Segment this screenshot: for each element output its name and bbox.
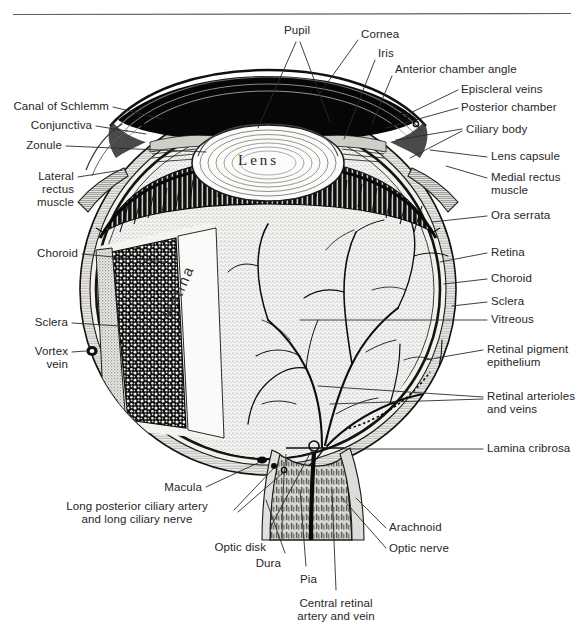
label-optic-nerve: Optic nerve	[389, 542, 449, 555]
label-retina-right: Retina	[491, 246, 525, 259]
label-lamina-cribrosa: Lamina cribrosa	[487, 442, 570, 455]
label-arachnoid: Arachnoid	[389, 521, 442, 534]
label-episcleral-veins: Episcleral veins	[461, 83, 543, 96]
label-pupil: Pupil	[284, 24, 310, 37]
label-sclera-right: Sclera	[491, 295, 524, 308]
label-central-retinal-artery-and-vein: Central retinal artery and vein	[272, 597, 400, 623]
top-rule	[13, 14, 571, 15]
label-cornea: Cornea	[361, 28, 399, 41]
label-anterior-chamber-angle: Anterior chamber angle	[395, 63, 517, 76]
leader-lens-capsule	[430, 150, 487, 157]
label-ciliary-body: Ciliary body	[466, 123, 527, 136]
label-retinal-pigment-epithelium: Retinal pigment epithelium	[487, 343, 568, 369]
label-sclera-left: Sclera	[0, 316, 68, 329]
leader-episcleral-veins	[404, 90, 458, 116]
label-choroid-left: Choroid	[0, 247, 78, 260]
label-retinal-arterioles-and-veins: Retinal arterioles and veins	[487, 390, 575, 416]
leader-medial-rectus	[446, 166, 487, 178]
label-optic-disk: Optic disk	[170, 541, 266, 554]
leader-vortex-vein	[72, 351, 86, 352]
optic-nerve	[262, 448, 364, 540]
lens-inline-text: Lens	[238, 154, 279, 167]
label-dura: Dura	[210, 557, 281, 570]
eye-anatomy-figure: Lens Retina Pupil Cornea Iris Anterior c…	[0, 0, 585, 640]
cutaway-wedge	[96, 222, 224, 440]
label-lateral-rectus-muscle: Lateral rectus muscle	[0, 170, 74, 209]
eyeball-globe	[80, 70, 456, 475]
label-choroid-right: Choroid	[491, 272, 532, 285]
label-vortex-vein: Vortex vein	[0, 345, 68, 371]
label-zonule: Zonule	[0, 139, 62, 152]
label-posterior-chamber: Posterior chamber	[461, 101, 557, 114]
label-vitreous: Vitreous	[491, 313, 534, 326]
vortex-vein	[86, 346, 97, 356]
label-medial-rectus-muscle: Medial rectus muscle	[491, 171, 561, 197]
canal-of-schlemm-left	[139, 121, 144, 126]
label-iris: Iris	[378, 47, 394, 60]
label-lens-capsule: Lens capsule	[491, 150, 560, 163]
label-conjunctiva: Conjunctiva	[0, 119, 92, 132]
episcleral-vein-2	[413, 121, 418, 126]
label-ora-serrata: Ora serrata	[491, 209, 550, 222]
label-long-posterior-ciliary: Long posterior ciliary artery and long c…	[42, 500, 232, 526]
label-macula: Macula	[100, 481, 202, 494]
leader-sclera-right	[452, 302, 487, 306]
label-canal-of-schlemm: Canal of Schlemm	[0, 100, 109, 113]
label-pia: Pia	[300, 573, 317, 586]
